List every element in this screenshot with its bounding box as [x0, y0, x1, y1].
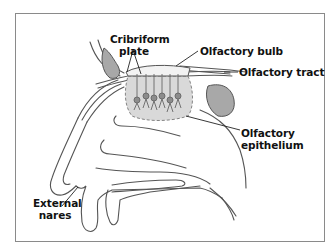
- sphenoid-sinus: [206, 85, 234, 117]
- label-cribriform-plate: Cribriform plate: [110, 33, 158, 57]
- label-olfactory-bulb: Olfactory bulb: [200, 45, 283, 57]
- label-olfactory-epithelium: Olfactory epithelium: [241, 127, 303, 151]
- label-olfactory-tract: Olfactory tract: [239, 66, 324, 78]
- upper-lip-outline: [76, 186, 222, 231]
- label-external-nares: External nares: [33, 197, 77, 221]
- inferior-concha: [96, 168, 210, 184]
- leader-olfactory-bulb: [176, 51, 198, 66]
- leader-olfactory-epithelium: [186, 116, 240, 130]
- middle-concha: [101, 140, 186, 168]
- olfactory-bulb: [126, 65, 190, 76]
